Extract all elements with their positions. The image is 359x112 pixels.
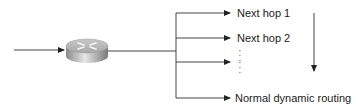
router-icon [66,39,108,63]
normal-dynamic-routing-label: Normal dynamic routing [235,92,351,104]
routing-diagram: Next hop 1 Next hop 2 ··· ··· Normal dyn… [0,0,359,112]
next-hop-1-label: Next hop 1 [237,7,290,19]
next-hop-2-label: Next hop 2 [237,32,290,44]
ellipsis-dots-lower: ··· [238,60,242,75]
